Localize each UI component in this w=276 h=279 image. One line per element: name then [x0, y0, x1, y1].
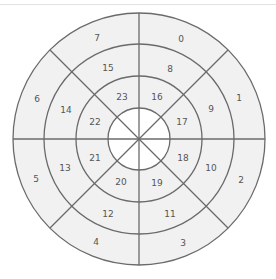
segment-label-15: 15: [102, 63, 113, 73]
segment-label-14: 14: [60, 105, 72, 115]
segment-label-7: 7: [94, 33, 100, 43]
segment-label-19: 19: [151, 178, 163, 188]
segment-label-3: 3: [180, 238, 186, 248]
segment-label-22: 22: [89, 117, 100, 127]
segment-label-6: 6: [34, 94, 40, 104]
segment-label-18: 18: [177, 153, 189, 163]
segment-label-17: 17: [176, 117, 187, 127]
segment-label-1: 1: [236, 93, 242, 103]
segment-label-12: 12: [102, 209, 113, 219]
segment-label-16: 16: [151, 92, 163, 102]
segment-label-9: 9: [208, 104, 214, 114]
segment-label-4: 4: [93, 237, 99, 247]
segment-label-0: 0: [178, 34, 184, 44]
segment-label-8: 8: [167, 64, 173, 74]
segment-label-20: 20: [115, 177, 127, 187]
polar-segment-diagram: 0 1 2 3 4 5 6 7 8 9 10 11 12 13 14 15 16…: [0, 0, 276, 279]
segment-label-2: 2: [238, 175, 244, 185]
segment-label-10: 10: [205, 163, 217, 173]
segment-label-13: 13: [59, 163, 70, 173]
segment-label-5: 5: [33, 174, 39, 184]
segment-label-23: 23: [116, 92, 127, 102]
segment-label-11: 11: [164, 209, 175, 219]
segment-label-21: 21: [89, 153, 100, 163]
